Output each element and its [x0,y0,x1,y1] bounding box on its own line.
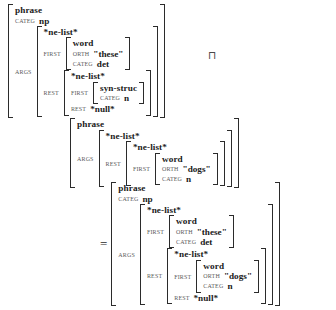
bracket-right [229,215,234,248]
attr-categ: CATEG [100,93,124,103]
avm-right-args-rest-first-body: word ORTH "dogs" CATEG [161,153,212,186]
bracket-right [125,37,130,70]
attr-rest: REST [71,104,90,114]
attr-first: FIRST [71,88,93,97]
type-ne-list: *ne-list* [44,27,152,38]
attr-first: FIRST [147,227,169,236]
row-rest-null: REST *null* [71,104,144,114]
row-rest: REST *ne-list* FIRST [106,141,225,186]
avm-result-args-rest-first: word ORTH "dogs" CATEG [196,260,259,293]
value-categ: n [124,93,129,103]
row-categ: CATEG n [100,93,137,103]
bracket-left [8,4,13,118]
row-first: FIRST word ORTH "dogs" [133,153,218,186]
bracket-right [146,70,151,115]
attr-categ: CATEG [118,194,142,204]
attr-orth: ORTH [73,49,94,59]
avm-result-outer: phrase CATEG np ARGS *ne-list* FIRST [111,182,280,306]
value-categ: n [227,281,232,291]
bracket-left [66,37,71,70]
avm-left-outer: phrase CATEG np ARGS *ne-list* FIRST [8,4,165,118]
row-categ: CATEG det [176,237,227,247]
value-categ: np [142,194,152,204]
avm-right-args: *ne-list* REST *ne-list* FIRST [99,130,232,188]
value-orth: "these" [93,49,123,59]
avm-result-args-rest-body: *ne-list* FIRST word [173,248,260,304]
bracket-right [160,4,165,118]
avm-left-args-rest-first: syn-struc CATEG n [93,82,144,105]
avm-result-args-rest-first-body: word ORTH "dogs" CATEG [202,260,253,293]
bracket-left [111,182,116,306]
avm-result-args-rest: *ne-list* FIRST word [167,248,266,304]
right-feature-structure: phrase ARGS *ne-list* REST *ne-list* [70,118,239,188]
type-ne-list: *ne-list* [147,205,266,216]
avm-right-args-rest-body: *ne-list* FIRST word [132,141,219,186]
attr-args: ARGS [15,67,37,76]
row-categ: CATEG np [15,16,158,26]
row-first: FIRST word ORTH "dogs" [174,260,259,293]
avm-result-args-body: *ne-list* FIRST word ORTH "these" [146,204,267,305]
attr-args: ARGS [77,154,99,163]
type-phrase: phrase [77,119,232,130]
bracket-left [140,204,145,305]
avm-result-args-first: word ORTH "these" CATEG det [169,215,234,248]
avm-right-outer: phrase ARGS *ne-list* REST *ne-list* [70,118,239,188]
row-args: ARGS *ne-list* FIRST word [15,26,158,117]
avm-left-args: *ne-list* FIRST word ORTH "these" [37,26,159,117]
bracket-left [126,141,131,186]
avm-left-args-first: word ORTH "these" CATEG det [66,37,131,70]
bracket-right [220,141,225,186]
row-orth: ORTH "these" [73,49,124,59]
avm-left-body: phrase CATEG np ARGS *ne-list* FIRST [14,4,159,118]
avm-right-args-body: *ne-list* REST *ne-list* FIRST [105,130,226,188]
bracket-right [139,82,144,105]
bracket-right [153,26,158,117]
avm-left-args-first-body: word ORTH "these" CATEG det [72,37,125,70]
type-word: word [176,216,227,227]
attr-orth: ORTH [176,227,197,237]
equals-sign: = [96,236,111,252]
row-first: FIRST word ORTH "these" [147,215,266,248]
value-categ: np [39,16,49,26]
attr-rest: REST [147,271,167,280]
bracket-right [275,182,280,306]
type-ne-list: *ne-list* [174,249,259,260]
bracket-left [155,153,160,186]
bracket-right [261,248,266,304]
row-rest: REST *ne-list* FIRST [147,248,266,304]
bracket-left [70,118,75,188]
row-first: FIRST syn-struc CATEG n [71,82,144,105]
avm-left-args-rest-body: *ne-list* FIRST syn-struc [70,70,145,115]
bracket-right [213,153,218,186]
type-ne-list: *ne-list* [106,131,225,142]
row-orth: ORTH "these" [176,227,227,237]
attr-categ: CATEG [176,237,200,247]
attr-categ: CATEG [73,59,97,69]
value-rest: *null* [90,104,115,114]
row-categ: CATEG det [73,59,124,69]
avm-left-args-rest-first-body: syn-struc CATEG n [99,82,138,105]
value-orth: "dogs" [183,164,211,174]
avm-result-args-first-body: word ORTH "these" CATEG det [175,215,228,248]
avm-left-args-body: *ne-list* FIRST word ORTH "these" [43,26,153,117]
value-categ: det [200,237,212,247]
row-rest-null: REST *null* [174,293,259,303]
value-categ: det [97,59,109,69]
attr-orth: ORTH [203,271,224,281]
value-rest: *null* [194,293,219,303]
result-feature-structure: = phrase CATEG np ARGS *ne-list* FIRST [96,182,280,306]
type-phrase: phrase [15,5,158,16]
attr-args: ARGS [118,250,140,259]
bracket-left [99,130,104,188]
type-phrase: phrase [118,183,273,194]
row-orth: ORTH "dogs" [203,271,252,281]
bracket-left [196,260,201,293]
avm-left-args-rest: *ne-list* FIRST syn-struc [64,70,151,115]
row-categ: CATEG n [203,281,252,291]
avm-result-body: phrase CATEG np ARGS *ne-list* FIRST [117,182,274,306]
row-categ: CATEG np [118,194,273,204]
attr-first: FIRST [133,164,155,173]
avm-right-args-rest: *ne-list* FIRST word [126,141,225,186]
left-feature-structure: phrase CATEG np ARGS *ne-list* FIRST [8,4,165,118]
bracket-left [167,248,172,304]
